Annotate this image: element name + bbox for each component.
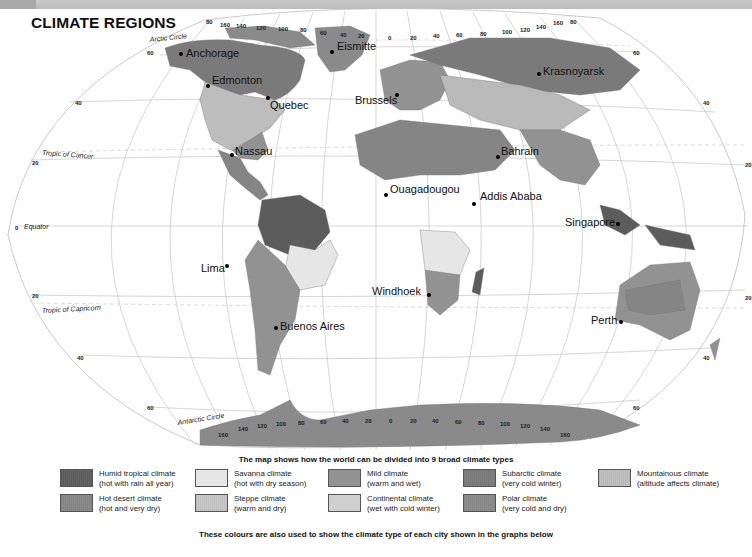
swatch-humid-tropical	[60, 469, 93, 487]
svg-text:40: 40	[77, 355, 84, 361]
svg-text:20: 20	[745, 295, 752, 301]
svg-text:Nassau: Nassau	[235, 145, 272, 157]
svg-text:140: 140	[536, 24, 547, 30]
svg-text:120: 120	[520, 27, 531, 33]
svg-text:20: 20	[365, 418, 372, 424]
swatch-polar	[463, 494, 496, 512]
legend-item-continental: Continental climate(wet with cold winter…	[328, 494, 440, 513]
city-ouagadougou[interactable]: Ouagadougou	[384, 183, 460, 197]
svg-text:160: 160	[553, 20, 564, 26]
svg-text:Krasnoyarsk: Krasnoyarsk	[543, 65, 605, 77]
svg-text:60: 60	[456, 32, 463, 38]
svg-text:Bahrain: Bahrain	[501, 145, 539, 157]
svg-text:20: 20	[410, 35, 417, 41]
city-bahrain[interactable]: Bahrain	[496, 145, 539, 159]
svg-text:120: 120	[257, 423, 268, 429]
city-anchorage[interactable]: Anchorage	[179, 47, 239, 59]
svg-text:40: 40	[432, 418, 439, 424]
city-singapore[interactable]: Singapore	[565, 216, 620, 228]
svg-text:60: 60	[633, 50, 640, 56]
svg-text:Ouagadougou: Ouagadougou	[390, 183, 460, 195]
svg-text:100: 100	[276, 421, 287, 427]
svg-text:140: 140	[236, 23, 247, 29]
legend-item-mild: Mild climate(warm and wet)	[328, 469, 421, 488]
svg-text:Eismitte: Eismitte	[337, 40, 376, 52]
city-lima[interactable]: Lima	[201, 262, 229, 274]
svg-text:100: 100	[500, 421, 511, 427]
svg-text:20: 20	[358, 33, 365, 39]
svg-text:160: 160	[560, 432, 571, 438]
city-krasnoyarsk[interactable]: Krasnoyarsk	[537, 65, 605, 77]
legend-item-mountainous: Mountainous climate(altitude affects cli…	[598, 469, 719, 488]
svg-text:80: 80	[298, 420, 305, 426]
svg-text:Singapore: Singapore	[565, 216, 615, 228]
svg-text:60: 60	[320, 419, 327, 425]
svg-text:160: 160	[220, 22, 231, 28]
svg-text:Perth: Perth	[591, 314, 617, 326]
city-edmonton[interactable]: Edmonton	[206, 74, 262, 88]
svg-text:80: 80	[478, 420, 485, 426]
city-brussels[interactable]: Brussels	[355, 93, 399, 106]
city-eismitte[interactable]: Eismitte	[330, 40, 376, 54]
new-zealand	[710, 338, 720, 360]
svg-text:60: 60	[147, 50, 154, 56]
svg-text:Quebec: Quebec	[270, 99, 309, 111]
svg-text:120: 120	[256, 25, 267, 31]
svg-text:20: 20	[745, 162, 752, 168]
svg-text:Anchorage: Anchorage	[186, 47, 239, 59]
svg-text:40: 40	[703, 355, 710, 361]
legend-heading: The map shows how the world can be divid…	[0, 455, 752, 464]
swatch-hot-desert	[60, 494, 93, 512]
svg-text:20: 20	[32, 160, 39, 166]
svg-text:20: 20	[410, 418, 417, 424]
svg-text:40: 40	[703, 100, 710, 106]
swatch-savanna	[195, 469, 228, 487]
city-nassau[interactable]: Nassau	[230, 145, 272, 157]
svg-text:40: 40	[342, 418, 349, 424]
svg-text:140: 140	[238, 426, 249, 432]
legend-footer: These colours are also used to show the …	[0, 530, 752, 539]
svg-text:80: 80	[480, 31, 487, 37]
swatch-steppe	[195, 494, 228, 512]
world-climate-map: Arctic Circle Tropic of Cancer Equator T…	[0, 0, 752, 450]
legend-item-subarctic: Subarctic climate(very cold winter)	[463, 469, 561, 488]
swatch-subarctic	[463, 469, 496, 487]
svg-text:120: 120	[520, 423, 531, 429]
city-buenos-aires[interactable]: Buenos Aires	[274, 320, 345, 332]
svg-text:Edmonton: Edmonton	[212, 74, 262, 86]
legend-item-polar: Polar climate(very cold and dry)	[463, 494, 567, 513]
svg-text:80: 80	[206, 19, 213, 25]
svg-text:60: 60	[455, 419, 462, 425]
svg-text:Windhoek: Windhoek	[372, 285, 421, 297]
svg-text:100: 100	[278, 26, 289, 32]
svg-text:80: 80	[300, 27, 307, 33]
svg-text:160: 160	[218, 432, 229, 438]
equator-label: Equator	[24, 223, 49, 231]
svg-text:40: 40	[340, 32, 347, 38]
svg-text:Brussels: Brussels	[355, 94, 398, 106]
svg-text:20: 20	[32, 293, 39, 299]
svg-text:100: 100	[502, 29, 513, 35]
svg-text:60: 60	[320, 30, 327, 36]
svg-text:Lima: Lima	[201, 262, 226, 274]
legend-item-humid-tropical: Humid tropical climate(hot with rain all…	[60, 469, 176, 488]
svg-text:140: 140	[540, 426, 551, 432]
city-quebec[interactable]: Quebec	[266, 96, 309, 111]
swatch-mild	[328, 469, 361, 487]
legend-item-hot-desert: Hot desert climate(hot and very dry)	[60, 494, 162, 513]
svg-text:40: 40	[433, 33, 440, 39]
legend-item-steppe: Steppe climate(warm and dry)	[195, 494, 286, 513]
swatch-mountainous	[598, 469, 631, 487]
swatch-continental	[328, 494, 361, 512]
svg-text:80: 80	[570, 19, 577, 25]
svg-text:Buenos Aires: Buenos Aires	[280, 320, 345, 332]
svg-text:60: 60	[633, 405, 640, 411]
svg-text:40: 40	[75, 100, 82, 106]
svg-text:Addis Ababa: Addis Ababa	[480, 190, 543, 202]
svg-text:60: 60	[147, 405, 154, 411]
legend-item-savanna: Savanna climate(hot with dry season)	[195, 469, 306, 488]
